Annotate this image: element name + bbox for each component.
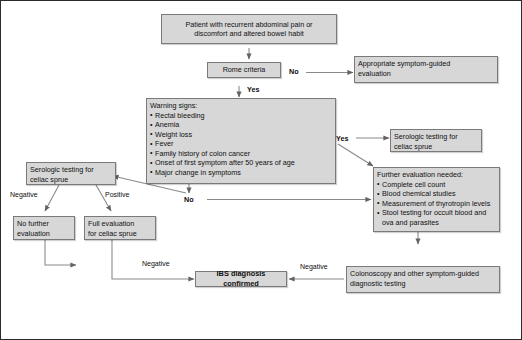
edge-label-serologic-positive: Positive: [105, 191, 130, 198]
node-serologic-testing-left-line2: celiac sprue: [30, 175, 112, 185]
node-ibs-diagnosis: IBS diagnosis confirmed: [195, 271, 287, 287]
node-serologic-testing-left-line1: Serologic testing for: [30, 165, 112, 175]
node-serologic-testing-right-line2: celiac sprue: [394, 142, 478, 152]
node-patient-line1: Patient with recurrent abdominal pain or: [185, 20, 312, 30]
edge-label-colonoscopy-negative: Negative: [300, 263, 328, 270]
further-item: Stool testing for occult blood and ova a…: [377, 208, 496, 227]
edge-label-full-eval-negative: Negative: [142, 260, 170, 267]
edge-label-serologic-negative: Negative: [10, 191, 38, 198]
edge-label-rome-yes: Yes: [247, 85, 259, 94]
warning-item: Anemia: [150, 120, 332, 130]
node-warning-signs-header: Warning signs:: [150, 101, 332, 111]
edge-warning-yes-to-further: [338, 144, 373, 166]
node-full-evaluation: Full evaluation for celiac sprue: [84, 216, 156, 240]
node-serologic-testing-left: Serologic testing for celiac sprue: [26, 162, 116, 185]
node-serologic-testing-right-line1: Serologic testing for: [394, 132, 478, 142]
node-colonoscopy-line2: diagnostic testing: [350, 279, 496, 289]
further-item: Blood chemical studies: [377, 189, 496, 199]
node-appropriate-evaluation-line1: Appropriate symptom-guided: [358, 59, 494, 69]
node-appropriate-evaluation-line2: evaluation: [358, 69, 494, 79]
edge-no-further-evaluation-out: [45, 240, 76, 265]
node-colonoscopy-line1: Colonoscopy and other symptom-guided: [350, 269, 496, 279]
node-patient: Patient with recurrent abdominal pain or…: [161, 14, 337, 44]
node-no-further-evaluation: No further evaluation: [13, 216, 75, 240]
warning-item: Fever: [150, 139, 332, 149]
flowchart-canvas: Patient with recurrent abdominal pain or…: [0, 0, 522, 340]
warning-item: Onset of first symptom after 50 years of…: [150, 158, 332, 168]
node-further-evaluation: Further evaluation needed: Complete cell…: [373, 167, 500, 232]
warning-item: Major change in symptoms: [150, 168, 332, 178]
edge-label-rome-no: No: [289, 67, 299, 76]
edge-label-warning-no: No: [184, 195, 194, 204]
edge-label-warning-yes: Yes: [336, 134, 348, 143]
node-no-further-evaluation-line2: evaluation: [17, 229, 71, 239]
further-item: Complete cell count: [377, 180, 496, 190]
node-warning-signs-list: Rectal bleeding Anemia Weight loss Fever…: [150, 111, 332, 178]
further-item: Measurement of thyrotropin levels: [377, 199, 496, 209]
node-rome-criteria-label: Rome criteria: [223, 65, 266, 75]
edge-serologic-negative: [45, 185, 59, 211]
node-full-evaluation-line2: for celiac sprue: [88, 229, 152, 239]
warning-item: Rectal bleeding: [150, 111, 332, 121]
warning-item: Weight loss: [150, 130, 332, 140]
node-patient-line2: discomfort and altered bowel habit: [185, 29, 312, 39]
node-no-further-evaluation-line1: No further: [17, 219, 71, 229]
node-colonoscopy: Colonoscopy and other symptom-guided dia…: [346, 266, 500, 293]
node-appropriate-evaluation: Appropriate symptom-guided evaluation: [354, 56, 498, 83]
node-further-evaluation-header: Further evaluation needed:: [377, 170, 496, 180]
warning-item: Family history of colon cancer: [150, 149, 332, 159]
edge-serologic-positive: [96, 185, 111, 211]
node-rome-criteria: Rome criteria: [207, 62, 281, 78]
node-further-evaluation-list: Complete cell count Blood chemical studi…: [377, 180, 496, 228]
node-full-evaluation-line1: Full evaluation: [88, 219, 152, 229]
node-warning-signs: Warning signs: Rectal bleeding Anemia We…: [146, 98, 336, 184]
node-ibs-diagnosis-label: IBS diagnosis confirmed: [199, 269, 283, 289]
node-serologic-testing-right: Serologic testing for celiac sprue: [390, 129, 482, 152]
